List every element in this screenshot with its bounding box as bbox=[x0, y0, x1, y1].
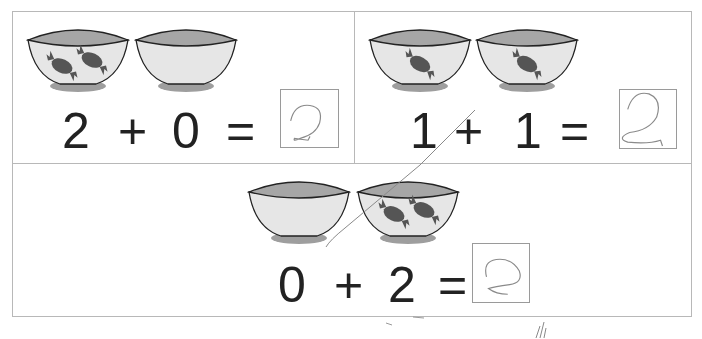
addend-right: 1 bbox=[514, 106, 542, 156]
handwritten-answer-2 bbox=[620, 90, 676, 148]
column-divider bbox=[354, 11, 355, 163]
bowl-with-two-candies-icon bbox=[356, 178, 460, 246]
plus-sign: + bbox=[118, 106, 147, 156]
bowl-with-two-candies-icon bbox=[26, 26, 130, 94]
plus-sign: + bbox=[454, 106, 483, 156]
answer-box-1[interactable] bbox=[280, 89, 339, 148]
handwritten-answer-2 bbox=[473, 244, 529, 302]
addend-left: 2 bbox=[62, 106, 90, 156]
plus-sign: + bbox=[334, 260, 363, 310]
equation-2: 1 + 1 = bbox=[410, 106, 610, 156]
bowl-with-one-candy-icon bbox=[475, 26, 579, 94]
addend-right: 2 bbox=[388, 260, 416, 310]
equals-sign: = bbox=[226, 106, 255, 156]
equation-1: 2 + 0 = bbox=[62, 106, 272, 156]
empty-bowl-icon bbox=[134, 26, 238, 94]
addend-right: 0 bbox=[172, 106, 200, 156]
answer-box-3[interactable] bbox=[472, 243, 530, 303]
addend-left: 0 bbox=[278, 260, 306, 310]
handwritten-answer-2 bbox=[281, 90, 338, 147]
equals-sign: = bbox=[560, 106, 589, 156]
equation-3: 0 + 2 = bbox=[278, 260, 478, 310]
answer-box-2[interactable] bbox=[619, 89, 677, 149]
addend-left: 1 bbox=[410, 106, 438, 156]
row-divider bbox=[12, 163, 692, 164]
equals-sign: = bbox=[438, 260, 467, 310]
empty-bowl-icon bbox=[247, 178, 351, 246]
bowl-with-one-candy-icon bbox=[368, 26, 472, 94]
